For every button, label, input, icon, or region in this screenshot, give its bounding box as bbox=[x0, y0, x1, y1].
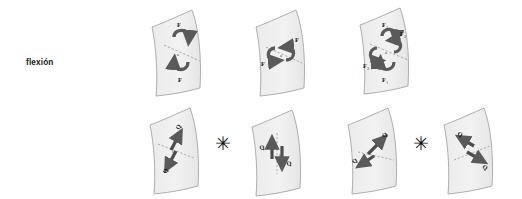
svg-text:a: a bbox=[177, 52, 179, 57]
svg-text:a: a bbox=[280, 53, 282, 58]
force-label-F-right: F bbox=[295, 36, 299, 43]
svg-text:a: a bbox=[385, 50, 387, 55]
svg-text:2: 2 bbox=[367, 67, 369, 71]
svg-text:1: 1 bbox=[386, 26, 388, 30]
bending-panel-1: a F F bbox=[144, 4, 236, 99]
bending-panel-2: a F F bbox=[248, 4, 340, 99]
shell-surface bbox=[252, 110, 301, 196]
force-label-F-bottom: F bbox=[178, 76, 182, 83]
operator-asterisk-1: ✳ bbox=[215, 134, 231, 153]
svg-text:2: 2 bbox=[404, 35, 406, 39]
shell-loading-figure: flexión a bbox=[0, 0, 522, 199]
bending-panel-3: a F 1 F bbox=[352, 2, 444, 97]
force-label-F-left: F bbox=[261, 60, 265, 67]
figure-row-shear: esfuerzo cortante perpendicular a Q Q bbox=[0, 100, 522, 199]
operator-asterisk-2: ✳ bbox=[413, 134, 429, 153]
svg-text:1: 1 bbox=[386, 81, 388, 85]
figure-row-bending: flexión a bbox=[0, 0, 522, 99]
shear-panel-2: a Q Q bbox=[244, 104, 336, 199]
shear-panel-4: a Q Q bbox=[436, 102, 522, 197]
row-label-flexion: flexión bbox=[26, 57, 53, 68]
force-label-F-top: F bbox=[177, 21, 181, 28]
